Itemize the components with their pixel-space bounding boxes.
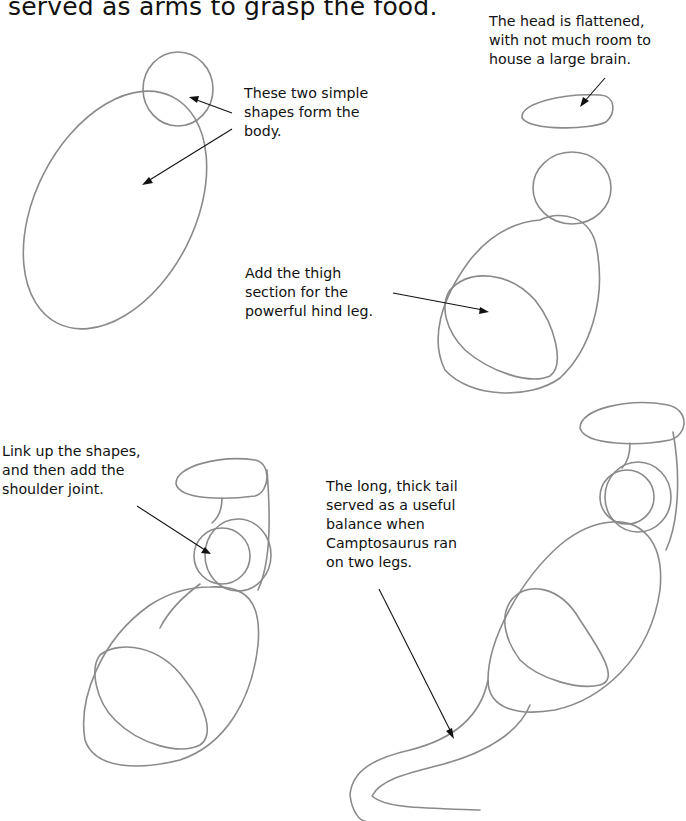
head-oval [580,403,684,444]
thigh-oval [505,589,608,687]
arrow-icon [393,293,489,314]
arrow-icon [379,589,454,739]
body-oval [438,215,599,392]
body-oval [84,587,259,766]
chest-circle [205,519,271,591]
head-oval [522,95,613,128]
tail-upper [350,680,488,821]
shoulder-circle [600,470,654,524]
body-oval [0,61,244,360]
step1-sketch [0,52,244,359]
arrow-icon [142,96,232,185]
chest-circle [143,52,213,126]
arrow-icon [137,506,211,554]
neck-line [212,498,222,523]
dinosaur-sketches [0,0,686,821]
chest-circle [533,152,611,224]
body-oval [488,522,661,712]
step4-sketch [84,459,271,766]
thigh-oval [445,276,557,379]
step5-sketch [350,403,684,821]
step3-sketch [393,152,611,393]
shoulder-circle [194,528,250,584]
arrow-icon [580,78,605,107]
tail-lower [372,705,530,810]
head-oval [176,459,267,498]
neck-line [666,432,678,550]
step2-sketch [522,78,613,128]
thigh-oval [95,647,207,749]
